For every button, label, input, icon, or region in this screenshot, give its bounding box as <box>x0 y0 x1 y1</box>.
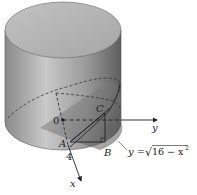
origin-dot <box>61 118 64 121</box>
wedge-cylinder-diagram: 0 C A B 4 x y y = √ 16 − x 2 <box>0 0 197 195</box>
point-a-label: A <box>58 138 66 149</box>
equation-lhs: y = <box>127 146 145 157</box>
equation: y = √ 16 − x 2 <box>127 144 189 159</box>
cylinder-top <box>5 2 121 58</box>
radius-label: 4 <box>66 151 72 162</box>
equation-radicand: 16 − x <box>152 146 184 157</box>
point-b-label: B <box>103 147 111 158</box>
equation-exponent: 2 <box>185 144 189 151</box>
point-c-label: C <box>96 103 104 114</box>
equation-pointer <box>118 141 127 150</box>
x-axis-label: x <box>70 178 76 189</box>
origin-label: 0 <box>53 115 59 126</box>
y-axis-label: y <box>151 122 158 133</box>
